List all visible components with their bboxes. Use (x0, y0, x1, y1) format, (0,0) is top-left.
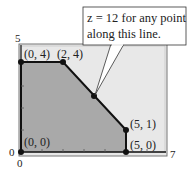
label-0-0: (0, 0) (24, 135, 50, 149)
linear-programming-graph: z = 12 for any point along this line. (0… (0, 0, 189, 169)
highlighted-point (91, 93, 97, 99)
vertex-point-5-1 (123, 127, 129, 133)
y-tick-label-5: 5 (15, 32, 21, 44)
callout-line-2: along this line. (87, 27, 161, 41)
callout-line-1: z = 12 for any point (87, 11, 187, 25)
vertex-point-5-0 (123, 149, 129, 155)
y-tick-label-0: 0 (9, 146, 15, 158)
vertex-point-0-0 (18, 149, 24, 155)
label-5-1: (5, 1) (130, 117, 156, 131)
label-2-4: (2, 4) (57, 47, 83, 61)
x-tick-label-7: 7 (170, 148, 176, 160)
x-tick-label-0: 0 (17, 157, 23, 169)
label-5-0: (5, 0) (130, 138, 156, 152)
label-0-4: (0, 4) (24, 47, 50, 61)
